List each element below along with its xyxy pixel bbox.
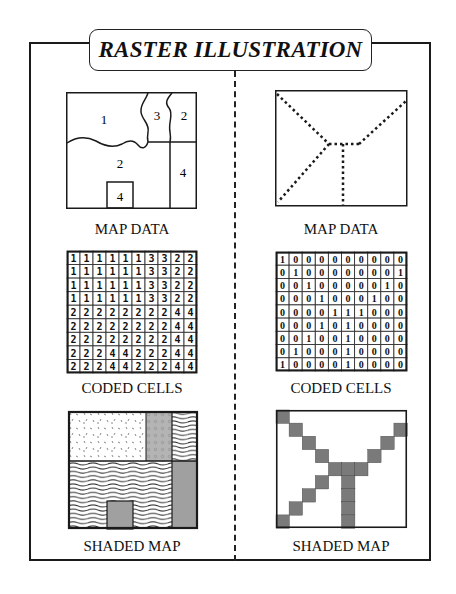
right-grid-cell-value: 0 xyxy=(398,346,403,357)
right-grid-cell-value: 1 xyxy=(385,280,390,291)
left-grid-cell: 2 xyxy=(145,332,158,346)
left-grid-cell-value: 2 xyxy=(148,334,154,345)
left-grid-cell-value: 1 xyxy=(96,253,102,264)
left-grid-cell: 2 xyxy=(171,265,184,279)
right-grid-cell-value: 0 xyxy=(359,280,364,291)
right-grid-cell: 0 xyxy=(368,252,381,265)
left-grid-cell: 2 xyxy=(145,305,158,319)
right-grid-cell-value: 0 xyxy=(293,333,298,344)
right-grid-cell-value: 1 xyxy=(319,293,324,304)
left-grid-cell-value: 2 xyxy=(161,321,167,332)
right-grid-cell-value: 0 xyxy=(306,307,311,318)
left-grid-cell-value: 1 xyxy=(135,293,141,304)
left-shaded-map-label: SHADED MAP xyxy=(32,538,232,555)
left-grid-cell: 4 xyxy=(171,332,184,346)
left-grid-cell: 1 xyxy=(93,265,106,279)
left-grid-cell: 2 xyxy=(80,359,93,373)
left-grid-cell: 4 xyxy=(119,346,132,360)
left-grid-cell-value: 2 xyxy=(96,334,102,345)
right-grid-cell: 0 xyxy=(289,252,302,265)
left-grid-cell: 1 xyxy=(93,251,106,265)
right-shaded-map-label: SHADED MAP xyxy=(241,538,441,555)
shaded-cell xyxy=(342,462,355,475)
left-grid-cell: 4 xyxy=(171,319,184,333)
left-grid-cell-value: 4 xyxy=(187,321,193,332)
right-grid-cell-value: 1 xyxy=(280,359,285,370)
right-grid-cell: 1 xyxy=(394,265,407,278)
title-box: RASTER ILLUSTRATION xyxy=(89,29,372,71)
left-grid-cell-value: 1 xyxy=(109,280,115,291)
right-grid-cell-value: 0 xyxy=(385,346,390,357)
left-grid-cell: 1 xyxy=(67,251,80,265)
left-grid-cell-value: 1 xyxy=(109,266,115,277)
right-grid-cell: 0 xyxy=(289,358,302,371)
left-grid-cell: 1 xyxy=(106,265,119,279)
right-grid-cell-value: 0 xyxy=(346,280,351,291)
left-grid-cell-value: 2 xyxy=(96,307,102,318)
left-grid-cell-value: 2 xyxy=(83,361,89,372)
left-grid-cell: 2 xyxy=(171,278,184,292)
right-coded-cells-grid: 1000000000010000000100100000100001000100… xyxy=(276,252,407,371)
right-grid-cell: 0 xyxy=(381,252,394,265)
left-grid-cell-value: 2 xyxy=(187,293,193,304)
left-grid-cell: 1 xyxy=(119,251,132,265)
left-grid-cell: 2 xyxy=(80,346,93,360)
left-grid-cell-value: 1 xyxy=(96,280,102,291)
left-grid-cell: 2 xyxy=(184,265,197,279)
left-grid-cell-value: 2 xyxy=(70,361,76,372)
left-grid-cell: 2 xyxy=(184,292,197,306)
shade-region-4-square xyxy=(107,501,133,529)
right-grid-cell: 0 xyxy=(328,331,341,344)
left-grid-cell-value: 2 xyxy=(135,307,141,318)
right-grid-cell: 1 xyxy=(276,358,289,371)
left-grid-cell: 2 xyxy=(119,319,132,333)
shaded-cell xyxy=(328,462,341,475)
region-1-label: 1 xyxy=(101,112,108,127)
left-grid-cell-value: 3 xyxy=(148,280,154,291)
left-grid-cell: 2 xyxy=(119,332,132,346)
left-grid-cell: 2 xyxy=(67,319,80,333)
left-grid-cell: 1 xyxy=(80,251,93,265)
left-grid-cell-value: 2 xyxy=(148,307,154,318)
right-grid-cell: 1 xyxy=(289,345,302,358)
right-grid-cell-value: 0 xyxy=(346,267,351,278)
region-3-label: 3 xyxy=(154,108,161,123)
right-grid-cell-value: 0 xyxy=(280,320,285,331)
right-grid-cell: 0 xyxy=(289,278,302,291)
left-grid-cell: 3 xyxy=(158,278,171,292)
center-divider xyxy=(234,71,236,561)
left-grid-cell: 3 xyxy=(158,292,171,306)
left-grid-cell-value: 2 xyxy=(174,266,180,277)
left-grid-cell-value: 2 xyxy=(96,348,102,359)
left-grid-cell: 4 xyxy=(184,332,197,346)
right-coded-cells-label: CODED CELLS xyxy=(241,380,441,397)
right-grid-cell: 0 xyxy=(368,278,381,291)
right-grid-cell-value: 0 xyxy=(306,359,311,370)
left-grid-cell: 2 xyxy=(158,359,171,373)
left-grid-cell: 3 xyxy=(145,251,158,265)
left-grid-cell: 3 xyxy=(158,265,171,279)
left-grid-cell: 4 xyxy=(106,359,119,373)
right-grid-cell: 0 xyxy=(276,265,289,278)
left-shaded-map xyxy=(68,411,198,529)
left-grid-cell: 1 xyxy=(80,292,93,306)
right-grid-cell: 0 xyxy=(289,318,302,331)
left-grid-cell-value: 2 xyxy=(187,280,193,291)
right-grid-cell-value: 0 xyxy=(372,280,377,291)
left-grid-cell-value: 2 xyxy=(161,307,167,318)
right-grid-cell: 0 xyxy=(276,318,289,331)
left-grid-cell-value: 4 xyxy=(174,334,180,345)
right-grid-cell: 0 xyxy=(276,305,289,318)
right-grid-cell-value: 0 xyxy=(306,320,311,331)
right-grid-cell: 1 xyxy=(289,265,302,278)
right-grid-cell: 0 xyxy=(368,331,381,344)
left-grid-cell-value: 3 xyxy=(161,253,167,264)
left-grid-cell: 2 xyxy=(67,332,80,346)
region-4-square-label: 4 xyxy=(117,189,124,204)
left-grid-cell-value: 3 xyxy=(148,253,154,264)
left-grid-cell-value: 2 xyxy=(96,361,102,372)
right-grid-cell-value: 1 xyxy=(346,359,351,370)
region-4-right-label: 4 xyxy=(180,165,187,180)
right-grid-cell: 0 xyxy=(289,305,302,318)
right-grid-cell-value: 0 xyxy=(319,333,324,344)
